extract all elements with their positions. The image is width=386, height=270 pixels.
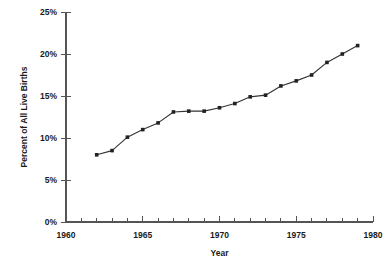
data-point bbox=[310, 73, 314, 77]
series-markers bbox=[95, 44, 360, 157]
data-point bbox=[356, 44, 360, 48]
y-tick-label: 20% bbox=[40, 49, 57, 59]
data-point bbox=[233, 102, 237, 106]
data-point bbox=[95, 153, 99, 157]
x-tick-label: 1970 bbox=[210, 230, 229, 240]
line-chart: 0%5%10%15%20%25% 19601965197019751980 Pe… bbox=[0, 0, 386, 270]
data-point bbox=[110, 149, 114, 153]
data-point bbox=[341, 52, 345, 56]
data-point bbox=[202, 109, 206, 113]
y-tick-label: 5% bbox=[45, 175, 58, 185]
data-point bbox=[187, 109, 191, 113]
data-point bbox=[279, 84, 283, 88]
x-tick-label: 1975 bbox=[287, 230, 306, 240]
data-series bbox=[95, 44, 360, 157]
y-tick-label: 15% bbox=[40, 91, 57, 101]
data-point bbox=[156, 121, 160, 125]
data-point bbox=[264, 93, 268, 97]
data-point bbox=[294, 79, 298, 83]
series-line bbox=[97, 46, 358, 155]
data-point bbox=[248, 95, 252, 99]
x-axis-ticks bbox=[66, 216, 373, 222]
x-tick-label: 1960 bbox=[57, 230, 76, 240]
data-point bbox=[218, 106, 222, 110]
data-point bbox=[141, 128, 145, 132]
x-axis-tick-labels: 19601965197019751980 bbox=[57, 230, 383, 240]
y-axis-tick-labels: 0%5%10%15%20%25% bbox=[40, 7, 57, 227]
x-axis-title: Year bbox=[211, 248, 230, 258]
x-tick-label: 1980 bbox=[364, 230, 383, 240]
data-point bbox=[126, 135, 130, 139]
y-tick-label: 25% bbox=[40, 7, 57, 17]
y-tick-label: 0% bbox=[45, 217, 58, 227]
data-point bbox=[172, 110, 176, 114]
x-tick-label: 1965 bbox=[133, 230, 152, 240]
y-axis: 0%5%10%15%20%25% bbox=[40, 7, 71, 227]
y-axis-title: Percent of All Live Births bbox=[19, 66, 29, 167]
x-axis: 19601965197019751980 bbox=[57, 216, 383, 240]
y-tick-label: 10% bbox=[40, 133, 57, 143]
chart-container: 0%5%10%15%20%25% 19601965197019751980 Pe… bbox=[0, 0, 386, 270]
data-point bbox=[325, 61, 329, 65]
